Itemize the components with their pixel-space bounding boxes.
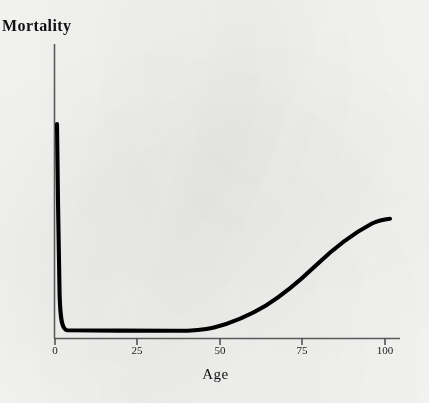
x-tick-label-75: 75 xyxy=(287,344,317,356)
x-tick-label-25: 25 xyxy=(122,344,152,356)
mortality-age-chart: Mortality Age 0 25 50 75 100 xyxy=(0,0,429,403)
y-axis-label: Mortality xyxy=(2,17,71,35)
x-tick-label-100: 100 xyxy=(370,344,400,356)
mortality-curve xyxy=(57,124,390,331)
plot-area xyxy=(0,0,429,403)
x-axis-label: Age xyxy=(0,366,429,383)
x-axis-label-text: Age xyxy=(202,366,229,383)
x-tick-label-0: 0 xyxy=(40,344,70,356)
x-tick-label-50: 50 xyxy=(205,344,235,356)
